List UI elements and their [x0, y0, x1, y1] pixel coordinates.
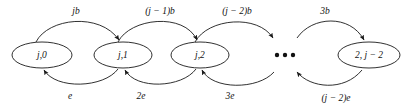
forward-edge-label-j-minus-2-b: (j − 2)b	[222, 6, 252, 17]
state-node-2-j-minus-2-label: 2, j − 2	[355, 50, 383, 60]
backward-edge-label-e: e	[68, 91, 72, 101]
ellipsis-dot	[275, 53, 279, 57]
state-node-j1-label: j,1	[116, 50, 128, 60]
state-node-j0[interactable]: j,0	[12, 42, 72, 68]
forward-edge-n0-n1	[36, 21, 119, 42]
state-node-2-j-minus-2[interactable]: 2, j − 2	[338, 42, 400, 68]
backward-edge-n1-n0	[44, 69, 118, 84]
forward-edge-n1-n2	[118, 21, 197, 42]
backward-edge-n2-n1	[125, 69, 196, 84]
state-node-j2-label: j,2	[193, 50, 205, 60]
backward-edge-ellipsis-n2	[202, 70, 274, 85]
forward-edge-label-j-minus-1-b: (j − 1)b	[145, 6, 175, 17]
backward-edge-n3-ellipsis	[297, 70, 362, 85]
forward-edge-label-3b: 3b	[319, 6, 330, 16]
state-transition-diagram: j,0 j,1 j,2 2, j − 2 jb (j − 1)b (j − 2)…	[0, 0, 412, 108]
forward-edge-n2-ellipsis	[195, 22, 273, 42]
state-node-j2[interactable]: j,2	[171, 42, 229, 68]
ellipsis-dot	[291, 53, 295, 57]
forward-edge-label-jb: jb	[70, 6, 80, 16]
state-node-j0-label: j,0	[35, 50, 47, 60]
forward-edge-ellipsis-n3	[297, 21, 364, 40]
ellipsis-dot	[283, 53, 287, 57]
state-node-j1[interactable]: j,1	[94, 42, 152, 68]
diagram-canvas: j,0 j,1 j,2 2, j − 2 jb (j − 1)b (j − 2)…	[0, 0, 412, 108]
backward-edge-label-j-minus-2-e: (j − 2)e	[321, 93, 350, 104]
backward-edge-label-2e: 2e	[137, 91, 146, 101]
ellipsis-indicator	[275, 53, 295, 57]
backward-edge-label-3e: 3e	[225, 91, 235, 101]
